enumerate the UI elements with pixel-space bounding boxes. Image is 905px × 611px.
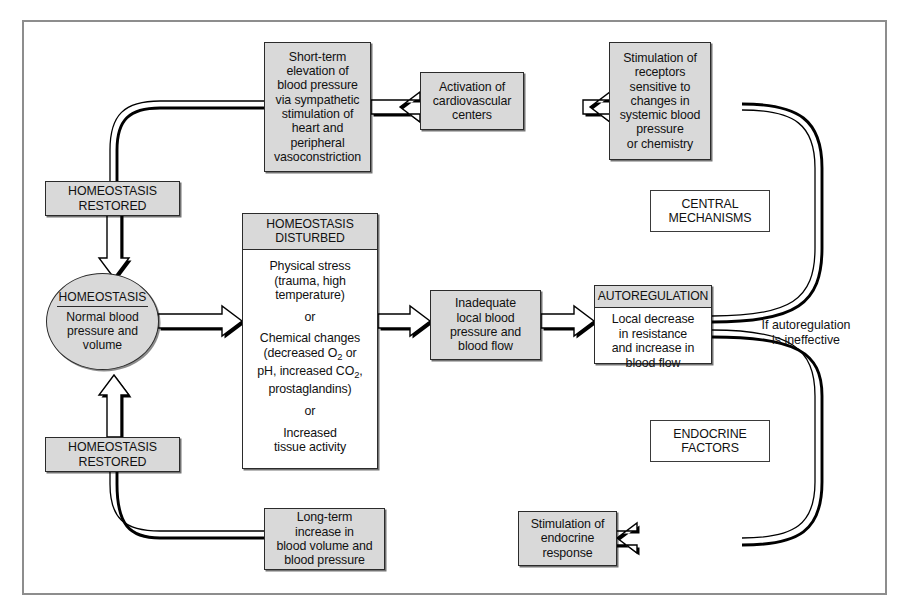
autoregulation-header: AUTOREGULATION <box>595 286 711 308</box>
inadequate-line-2: local blood <box>456 311 514 325</box>
disturbed-g2-line-3-post: , <box>359 364 362 378</box>
activation-line-2: cardiovascular <box>433 94 512 108</box>
homeostasis-circle-node: HOMEOSTASIS Normal blood pressure and vo… <box>46 273 159 370</box>
central-mechanisms-line-2: MECHANISMS <box>669 211 752 225</box>
activation-line-1: Activation of <box>439 80 505 94</box>
disturbed-g2-line-2-pre: (decreased O <box>263 346 337 360</box>
endocrine-stim-line-1: Stimulation of <box>531 517 605 531</box>
disturbed-g1-line-3: temperature) <box>275 288 345 302</box>
disturbed-g1-line-1: Physical stress <box>269 259 350 273</box>
restored-top-line-1: HOMEOSTASIS <box>68 184 157 198</box>
arrow-disturbed-to-inadequate <box>378 306 433 339</box>
endocrine-factors-line-2: FACTORS <box>681 441 739 455</box>
receptors-line-1: Stimulation of <box>623 51 697 65</box>
autoregulation-line-1: Local decrease <box>612 312 695 326</box>
receptors-line-4: changes in <box>631 94 690 108</box>
if-autoregulation-line-1: If autoregulation <box>762 318 851 332</box>
arrow-circle-to-disturbed <box>158 306 245 339</box>
receptors-line-6: pressure <box>636 122 683 136</box>
activation-line-3: centers <box>452 108 492 122</box>
if-autoregulation-ineffective-label: If autoregulation is ineffective <box>731 318 881 347</box>
receptors-line-5: systemic blood <box>620 108 701 122</box>
autoregulation-box: AUTOREGULATION Local decrease in resista… <box>594 285 712 364</box>
restored-bottom-line-2: RESTORED <box>79 455 147 469</box>
inadequate-line-4: blood flow <box>458 339 513 353</box>
autoregulation-body: Local decrease in resistance and increas… <box>595 308 711 376</box>
autoregulation-line-3: and increase in <box>612 341 695 355</box>
homeostasis-restored-top-box: HOMEOSTASIS RESTORED <box>45 181 180 216</box>
long-term-line-3: blood volume and <box>276 539 372 553</box>
central-mechanisms-line-1: CENTRAL <box>681 197 738 211</box>
arrow-inadequate-to-autoregulation <box>541 306 597 339</box>
arrow-centers-to-short-term <box>371 92 423 125</box>
disturbed-header-line-1: HOMEOSTASIS <box>266 217 353 231</box>
homeostasis-disturbed-body: Physical stress (trauma, high temperatur… <box>243 250 377 461</box>
homeostasis-restored-bottom-box: HOMEOSTASIS RESTORED <box>45 437 180 472</box>
homeostasis-circle-line-1: Normal blood <box>66 310 138 324</box>
short-term-line-4: via sympathetic <box>276 93 360 107</box>
receptors-line-2: receptors <box>635 65 686 79</box>
short-term-line-3: blood pressure <box>277 78 358 92</box>
short-term-line-6: heart and <box>292 121 343 135</box>
disturbed-g3-line-2: tissue activity <box>274 440 346 454</box>
short-term-line-8: vasoconstriction <box>274 150 361 164</box>
endocrine-stim-line-3: response <box>542 546 592 560</box>
receptors-line-3: sensitive to <box>630 80 691 94</box>
long-term-line-2: increase in <box>295 525 354 539</box>
disturbed-header-line-2: DISTURBED <box>275 231 345 245</box>
long-term-line-4: blood pressure <box>284 553 365 567</box>
long-term-increase-box: Long-term increase in blood volume and b… <box>264 508 385 570</box>
pipe-long-term-to-homeostasis-restored-bottom <box>110 465 264 538</box>
disturbed-g3-line-1: Increased <box>283 426 337 440</box>
if-autoregulation-line-2: is ineffective <box>772 333 840 347</box>
homeostasis-disturbed-box: HOMEOSTASIS DISTURBED Physical stress (t… <box>242 213 378 469</box>
arrow-restored-bottom-to-circle <box>99 375 132 440</box>
disturbed-or-2: or <box>248 404 372 419</box>
homeostasis-disturbed-header: HOMEOSTASIS DISTURBED <box>243 214 377 250</box>
short-term-line-1: Short-term <box>289 50 347 64</box>
inadequate-line-3: pressure and <box>450 325 521 339</box>
autoregulation-line-2: in resistance <box>619 327 687 341</box>
endocrine-factors-box: ENDOCRINE FACTORS <box>650 420 770 462</box>
activation-cardiovascular-centers-box: Activation of cardiovascular centers <box>420 72 524 130</box>
homeostasis-circle-line-2: pressure and <box>67 324 138 338</box>
receptors-line-7: or chemistry <box>627 137 693 151</box>
disturbed-g2-line-3-pre: pH, increased CO <box>257 364 354 378</box>
stimulation-of-receptors-box: Stimulation of receptors sensitive to ch… <box>609 42 711 160</box>
pipe-short-term-to-homeostasis-restored-top <box>110 101 264 186</box>
restored-bottom-line-1: HOMEOSTASIS <box>68 440 157 454</box>
long-term-line-1: Long-term <box>297 510 353 524</box>
restored-top-line-2: RESTORED <box>79 199 147 213</box>
short-term-elevation-box: Short-term elevation of blood pressure v… <box>264 42 371 172</box>
disturbed-or-1: or <box>248 310 372 325</box>
central-mechanisms-box: CENTRAL MECHANISMS <box>650 190 770 232</box>
disturbed-g2-line-4: prostaglandins) <box>268 382 351 396</box>
autoregulation-header-line-1: AUTOREGULATION <box>598 289 709 303</box>
short-term-line-5: stimulation of <box>282 107 354 121</box>
endocrine-factors-line-1: ENDOCRINE <box>673 427 746 441</box>
arrow-restored-top-to-circle <box>99 213 132 281</box>
autoregulation-line-4: blood flow <box>626 356 681 370</box>
endocrine-stim-line-2: endocrine <box>541 531 595 545</box>
figure-canvas: Short-term elevation of blood pressure v… <box>0 0 905 611</box>
disturbed-g1-line-2: (trauma, high <box>274 274 346 288</box>
homeostasis-circle-title: HOMEOSTASIS <box>57 290 149 306</box>
inadequate-local-blood-flow-box: Inadequate local blood pressure and bloo… <box>430 290 541 360</box>
disturbed-g2-line-1: Chemical changes <box>260 331 360 345</box>
homeostasis-circle-line-3: volume <box>83 338 122 352</box>
inadequate-line-1: Inadequate <box>455 296 516 310</box>
short-term-line-7: peripheral <box>290 136 344 150</box>
stimulation-of-endocrine-response-box: Stimulation of endocrine response <box>518 511 617 566</box>
disturbed-g2-line-2-post: or <box>342 346 356 360</box>
short-term-line-2: elevation of <box>286 64 348 78</box>
